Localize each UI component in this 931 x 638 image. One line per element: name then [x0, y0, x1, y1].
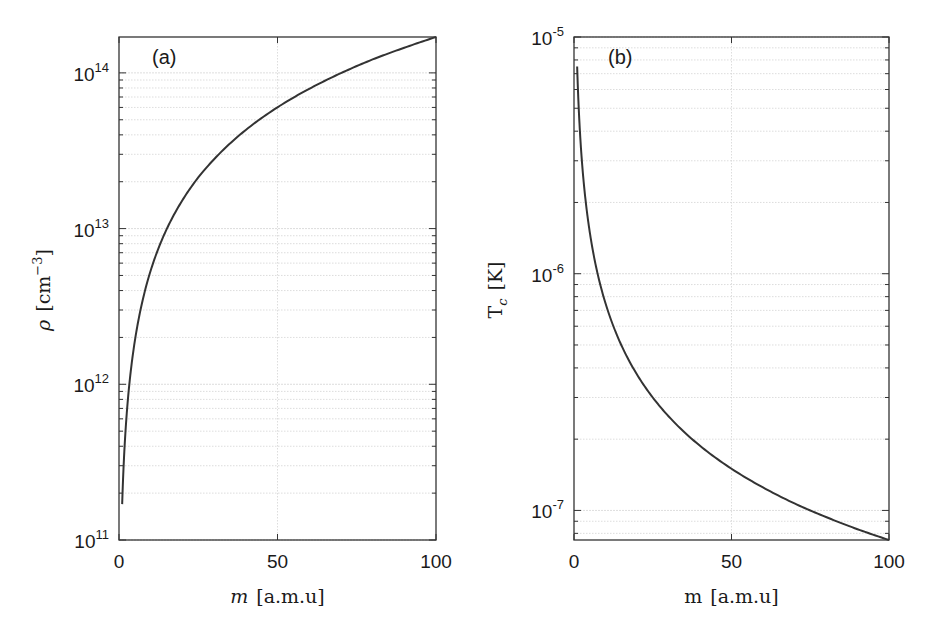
x-axis-unit: [a.m.u] [256, 585, 325, 607]
y-tick-base: 10 [73, 220, 94, 241]
y-tick-label: 1012 [73, 371, 109, 396]
x-tick-label: 50 [721, 551, 742, 572]
x-tick-label: 50 [267, 551, 288, 572]
y-tick-label: 10-7 [531, 497, 564, 522]
y-axis-label: Tc[K] [484, 262, 510, 319]
y-axis-unit: [cm [32, 276, 54, 312]
y-axis-unit-close: ] [32, 249, 54, 256]
x-axis-variable: m [230, 585, 248, 607]
y-tick-base: 10 [73, 375, 94, 396]
y-axis-variable: ρ [32, 319, 54, 332]
y-tick-base: 10 [531, 28, 552, 49]
y-tick-label: 1014 [73, 60, 109, 85]
panel-label: (a) [152, 46, 176, 68]
figure: 0501001011101210131014(a)m[a.m.u]ρ[cm−3]… [0, 0, 931, 638]
y-axis-unit: [K] [484, 262, 506, 291]
y-tick-exponent: 11 [96, 527, 110, 542]
y-tick-exponent: 12 [95, 371, 109, 386]
x-tick-label: 100 [420, 551, 452, 572]
series-line-Tc [577, 67, 889, 540]
x-axis-unit: [a.m.u] [710, 585, 779, 607]
y-axis-unit-exponent: −3 [30, 257, 45, 276]
x-tick-label: 0 [569, 551, 580, 572]
y-tick-label: 10-6 [531, 261, 564, 286]
x-tick-label: 100 [873, 551, 905, 572]
series-line-rho [122, 37, 436, 504]
y-tick-exponent: 13 [95, 216, 109, 231]
y-tick-base: 10 [531, 501, 552, 522]
x-tick-label: 0 [114, 551, 125, 572]
y-tick-label: 1013 [73, 216, 109, 241]
y-tick-exponent: -7 [552, 497, 564, 512]
y-axis-label: ρ[cm−3] [30, 249, 54, 332]
x-axis-label: m[a.m.u] [230, 585, 325, 607]
y-tick-label: 10-5 [531, 24, 564, 49]
y-tick-exponent: 14 [95, 60, 109, 75]
x-axis-label: m[a.m.u] [684, 585, 779, 607]
panel-a-plot: 0501001011101210131014(a)m[a.m.u]ρ[cm−3] [30, 37, 452, 607]
y-tick-base: 10 [531, 265, 552, 286]
y-axis-subscript: c [495, 298, 510, 306]
y-tick-base: 10 [73, 64, 94, 85]
panel-b-plot: 05010010-710-610-5(b)m[a.m.u]Tc[K] [484, 24, 905, 607]
y-tick-exponent: -6 [552, 261, 564, 276]
y-tick-label: 1011 [74, 527, 109, 552]
panel-label: (b) [608, 46, 632, 68]
y-axis-variable: T [484, 306, 506, 319]
y-tick-base: 10 [74, 531, 95, 552]
y-tick-exponent: -5 [552, 24, 564, 39]
x-axis-variable: m [684, 585, 702, 607]
